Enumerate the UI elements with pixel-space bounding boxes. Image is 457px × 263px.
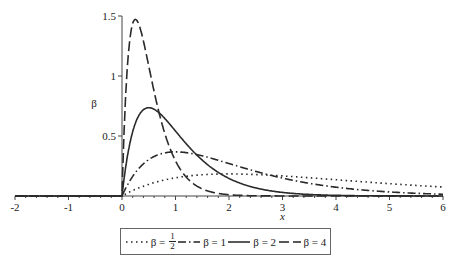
- legend-label: β = 4: [304, 236, 327, 248]
- legend-item-beta-half: β = 1 2: [125, 232, 176, 251]
- curve-dashdot: [15, 152, 443, 196]
- legend-item-beta-4: β = 4: [278, 236, 327, 248]
- x-axis-label: x: [279, 210, 285, 222]
- legend-item-beta-1: β = 1: [177, 236, 226, 248]
- legend: β = 1 2 β = 1 β = 2 β = 4: [120, 228, 331, 255]
- x-tick-label: 0: [119, 201, 125, 213]
- x-tick-label: 5: [387, 201, 393, 213]
- solid-line-icon: [227, 239, 251, 245]
- y-axis-label: β: [91, 97, 97, 109]
- x-tick-label: 1: [173, 201, 179, 213]
- axes: -2-101234560.511.5xβ: [10, 10, 446, 222]
- y-tick-label: 0.5: [102, 130, 116, 142]
- fraction: 1 2: [169, 232, 176, 251]
- x-tick-label: -1: [64, 201, 73, 213]
- x-tick-label: 2: [226, 201, 232, 213]
- curve-solid: [15, 108, 443, 196]
- dashdot-line-icon: [177, 239, 201, 245]
- curves: [15, 19, 443, 196]
- legend-label: β =: [151, 236, 166, 248]
- chart-canvas: -2-101234560.511.5xβ: [0, 0, 457, 263]
- y-tick-label: 1: [111, 70, 117, 82]
- curve-dotted: [15, 174, 443, 196]
- legend-item-beta-2: β = 2: [227, 236, 276, 248]
- x-tick-label: 4: [333, 201, 339, 213]
- legend-label: β = 1: [203, 236, 226, 248]
- dotted-line-icon: [125, 239, 149, 245]
- x-tick-label: -2: [10, 201, 19, 213]
- legend-label: β = 2: [253, 236, 276, 248]
- y-tick-label: 1.5: [102, 10, 116, 22]
- x-tick-label: 6: [440, 201, 446, 213]
- dashed-line-icon: [278, 239, 302, 245]
- curve-dashed: [15, 19, 443, 196]
